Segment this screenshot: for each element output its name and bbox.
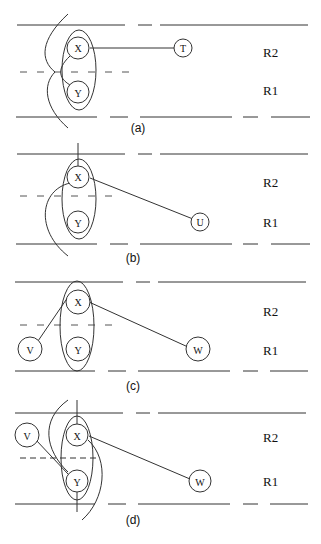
node-x-label: X	[74, 297, 82, 308]
node-v-label: V	[23, 431, 31, 442]
edge-v-y	[36, 440, 68, 474]
cut-arc	[45, 14, 68, 128]
node-x-label: X	[74, 43, 82, 54]
panel-a: X Y T R2 R1 (a)	[16, 14, 310, 135]
node-x-label: X	[74, 172, 82, 183]
region-label-r1: R1	[263, 474, 278, 489]
diagram-canvas: X Y T R2 R1 (a) X Y U R2 R1 (b)	[0, 0, 321, 544]
node-y-label: Y	[74, 218, 81, 229]
cut-arc-left	[49, 400, 68, 472]
panel-caption: (a)	[131, 121, 146, 135]
edge-x-w	[89, 436, 190, 479]
node-y-label: Y	[74, 345, 81, 356]
edge-x-w	[89, 302, 188, 347]
region-label-r2: R2	[263, 175, 278, 190]
node-t-label: T	[180, 43, 186, 54]
node-w-label: W	[193, 345, 203, 356]
panel-caption: (b)	[126, 251, 141, 265]
panel-c: V X Y W R2 R1 (c)	[15, 281, 308, 393]
region-label-r2: R2	[263, 45, 278, 60]
cut-arc	[45, 183, 70, 256]
node-w-label: W	[195, 477, 205, 488]
node-y-label: Y	[73, 477, 80, 488]
panel-b: X Y U R2 R1 (b)	[16, 143, 310, 265]
edge-v-x	[38, 297, 68, 341]
edge-x-u	[90, 178, 193, 219]
node-u-label: U	[196, 217, 204, 228]
panel-caption: (d)	[126, 513, 141, 527]
region-label-r1: R1	[263, 343, 278, 358]
node-y-label: Y	[74, 88, 81, 99]
region-label-r2: R2	[263, 304, 278, 319]
region-label-r1: R1	[263, 215, 278, 230]
node-x-label: X	[73, 431, 81, 442]
region-label-r2: R2	[263, 430, 278, 445]
panel-d: V X Y W R2 R1 (d)	[15, 400, 308, 527]
panel-caption: (c)	[126, 379, 140, 393]
node-v-label: V	[26, 345, 34, 356]
region-label-r1: R1	[263, 83, 278, 98]
